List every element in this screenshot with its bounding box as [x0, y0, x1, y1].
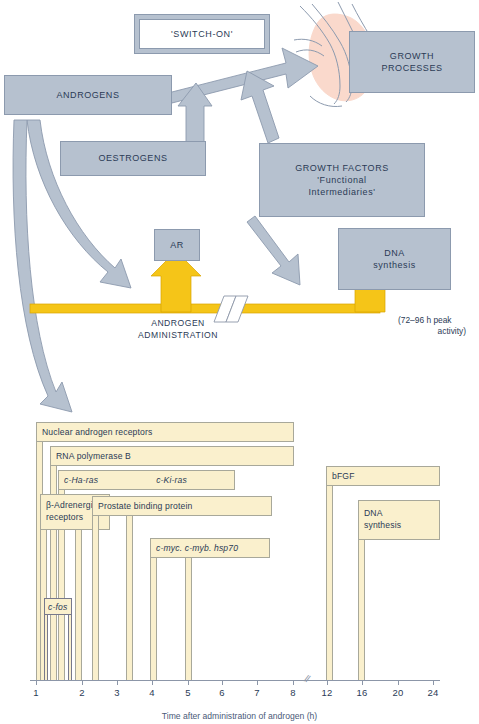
- x-axis-line: [30, 680, 440, 681]
- x-axis-tick-label: 24: [427, 687, 438, 698]
- response-timecourse-chart: Nuclear androgen receptors RNA polymeras…: [0, 404, 479, 724]
- x-axis-tick-label: 5: [185, 687, 191, 698]
- bar-label-line2: receptors: [46, 512, 83, 524]
- bar-stem-prostate-binding-protein: [92, 516, 99, 680]
- bar-label-ha-ras: c-Ha-ras: [64, 475, 98, 485]
- x-axis-tick: [152, 680, 153, 685]
- x-axis-tick-label: 2: [79, 687, 85, 698]
- x-axis-break-mark: //: [303, 673, 310, 685]
- arrow-growth-factors-down: [247, 216, 300, 285]
- bar-label: c-fos: [48, 602, 67, 612]
- bar-label: RNA polymerase B: [56, 451, 131, 461]
- bar-label-ki-ras: c-Ki-ras: [156, 475, 187, 485]
- bar-stem-c-fos-right: [68, 615, 72, 680]
- bar-dna-synthesis[interactable]: DNA synthesis: [358, 500, 440, 540]
- growth-processes-line2: PROCESSES: [382, 62, 443, 74]
- bar-ras-genes[interactable]: c-Ha-ras c-Ki-ras: [58, 470, 235, 490]
- bar-stem-prostate-binding-protein-right: [126, 516, 133, 680]
- bar-cmyc-cmyb-hsp70[interactable]: c-myc. c-myb. hsp70: [150, 538, 270, 558]
- growth-processes-line1: GROWTH: [390, 50, 434, 62]
- x-axis-tick: [398, 680, 399, 685]
- ar-box[interactable]: AR: [154, 229, 200, 261]
- bar-stem-bfgf: [326, 486, 333, 680]
- bar-label: bFGF: [332, 471, 355, 481]
- dna-synthesis-line2: synthesis: [373, 259, 415, 271]
- bar-label-line1: DNA: [364, 508, 383, 520]
- bar-label: c-myc. c-myb. hsp70: [156, 543, 238, 553]
- androgens-box[interactable]: ANDROGENS: [4, 75, 172, 115]
- bar-stem-dna-synthesis: [358, 540, 365, 680]
- dna-synthesis-box[interactable]: DNA synthesis: [338, 228, 451, 290]
- switch-on-box[interactable]: 'SWITCH-ON': [134, 14, 270, 54]
- x-axis-tick: [362, 680, 363, 685]
- x-axis-tick-label: 6: [219, 687, 225, 698]
- androgen-administration-line2: ADMINISTRATION: [118, 330, 238, 342]
- bar-label: Prostate binding protein: [98, 501, 192, 511]
- x-axis-tick-label: 16: [356, 687, 367, 698]
- bar-nuclear-androgen-receptors[interactable]: Nuclear androgen receptors: [36, 422, 294, 442]
- dna-synthesis-line1: DNA: [384, 247, 405, 259]
- x-axis-tick: [327, 680, 328, 685]
- bar-label-line1: β-Adrenergic: [46, 500, 97, 512]
- bar-label: Nuclear androgen receptors: [42, 427, 152, 437]
- androgen-administration-line1: ANDROGEN: [118, 318, 238, 330]
- x-axis-tick-label: 12: [321, 687, 332, 698]
- x-axis-tick: [117, 680, 118, 685]
- bar-stem-c-fos: [44, 615, 48, 680]
- x-axis-tick: [36, 680, 37, 685]
- bar-c-fos[interactable]: c-fos: [44, 598, 72, 615]
- bar-stem-beta-adrenergic-right: [75, 530, 82, 680]
- arrow-growth-factors-up: [241, 71, 279, 143]
- x-axis-tick-label: 20: [392, 687, 403, 698]
- x-axis-tick: [433, 680, 434, 685]
- x-axis-tick-label: 1: [33, 687, 39, 698]
- bar-rna-polymerase-b[interactable]: RNA polymerase B: [50, 446, 294, 466]
- x-axis-tick: [82, 680, 83, 685]
- figure-canvas: .ar{fill:#b6c1cf;stroke:#8c9aae;stroke-w…: [0, 0, 479, 724]
- x-axis-tick-label: 7: [254, 687, 260, 698]
- growth-factors-box[interactable]: GROWTH FACTORS 'Functional Intermediarie…: [259, 143, 425, 217]
- androgen-administration-label: ANDROGEN ADMINISTRATION: [118, 318, 238, 341]
- bar-prostate-binding-protein[interactable]: Prostate binding protein: [92, 496, 272, 516]
- bar-bfgf[interactable]: bFGF: [326, 466, 440, 486]
- bar-stem-cmyc: [150, 558, 157, 680]
- bar-stem-cmyc-right: [185, 558, 192, 680]
- bar-label-line2: synthesis: [364, 520, 401, 532]
- x-axis-title: Time after administration of androgen (h…: [0, 711, 479, 721]
- growth-processes-box[interactable]: GROWTH PROCESSES: [349, 31, 475, 93]
- growth-factors-line2: 'Functional: [317, 174, 366, 186]
- peak-activity-note: (72–96 h peak activity): [398, 315, 478, 337]
- growth-factors-line3: Intermediaries': [309, 186, 376, 198]
- oestrogens-box[interactable]: OESTROGENS: [60, 141, 206, 176]
- x-axis-tick: [257, 680, 258, 685]
- peak-activity-line1: (72–96 h peak: [398, 315, 478, 326]
- peak-activity-line2: activity): [398, 326, 478, 337]
- x-axis-tick-label: 3: [114, 687, 120, 698]
- arrow-oestrogens-up: [178, 83, 212, 143]
- x-axis-tick-label: 8: [290, 687, 296, 698]
- x-axis-tick: [293, 680, 294, 685]
- x-axis-tick-label: 4: [149, 687, 155, 698]
- arrow-androgens-to-organ: [168, 48, 318, 103]
- x-axis-tick: [188, 680, 189, 685]
- x-axis-tick: [222, 680, 223, 685]
- switch-on-label: 'SWITCH-ON': [139, 19, 265, 49]
- growth-factors-line1: GROWTH FACTORS: [295, 162, 389, 174]
